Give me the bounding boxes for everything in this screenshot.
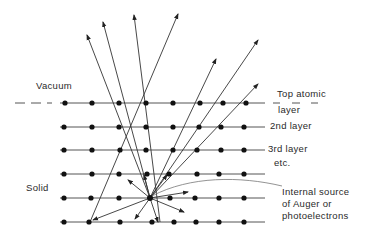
source-label-line1: Internal source [282,186,349,197]
atoms [61,100,248,224]
layer-6-atoms [61,219,246,224]
source-pointer-line [152,179,282,196]
etc-label: etc. [274,157,291,168]
electron-trajectories [87,14,258,222]
solid-label: Solid [26,182,49,193]
top-layer-label-line2: layer [278,104,300,115]
source-label-line2: of Auger or [282,198,332,209]
atomic-layers [60,103,265,222]
vacuum-label: Vacuum [36,80,72,91]
source-label-line3: photoelectrons [282,210,349,221]
top-layer-label: Top atomic [277,88,326,99]
second-layer-label: 2nd layer [270,120,312,131]
third-layer-label: 3rd layer [268,143,308,154]
